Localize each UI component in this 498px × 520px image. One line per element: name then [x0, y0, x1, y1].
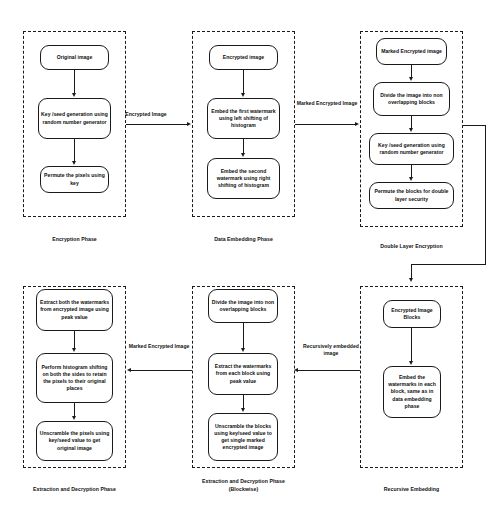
node-embed-watermarks-blocks[interactable]: Embed the watermarks in each block, same…: [383, 366, 441, 418]
node-label: Key /seed generation using random number…: [41, 111, 108, 125]
edge-label-line2: Image: [343, 100, 358, 106]
connector-arrowhead: [409, 77, 413, 81]
node-label: Permute the pixels using key: [43, 172, 106, 186]
caption-text: Extraction and Decryption Phase: [33, 486, 116, 492]
node-permute-pixels[interactable]: Permute the pixels using key: [40, 166, 109, 193]
node-label: Extract both the watermarks from encrypt…: [39, 299, 110, 321]
node-label: Key /seed generation using random number…: [372, 142, 451, 156]
connector-line: [74, 139, 75, 163]
node-label: Divide the image into non overlapping bl…: [211, 299, 275, 313]
node-unscramble-pixels[interactable]: Unscramble the pixels using key/seed val…: [36, 421, 113, 461]
node-marked-encrypted-image[interactable]: Marked Encrypted image: [376, 38, 447, 65]
edge-label-line1: Marked Encrypted: [297, 100, 341, 106]
node-original-image[interactable]: Original image: [40, 45, 109, 70]
edge-label-line1: Recursively embedded: [303, 343, 359, 349]
node-label: Unscramble the blocks using key/seed val…: [211, 423, 275, 452]
edge-label-recursively-embedded-image: Recursively embedded image: [297, 343, 365, 358]
node-permute-blocks[interactable]: Permute the blocks for double layer secu…: [369, 182, 454, 209]
connector-arrowhead: [241, 153, 245, 157]
connector-line: [411, 328, 412, 363]
edge-label-marked-encrypted-image: Marked Encrypted Image: [296, 100, 358, 107]
node-extract-watermarks-blocks[interactable]: Extract the watermarks from each block u…: [208, 353, 278, 395]
edge-label-line2: Image: [175, 343, 190, 349]
connector-line: [126, 124, 188, 125]
edge-label-encrypted-image: Encrypted Image: [101, 111, 191, 118]
connector-arrowhead: [241, 408, 245, 412]
node-label: Embed the first watermark using left shi…: [210, 108, 277, 130]
node-divide-image-blocks-2[interactable]: Divide the image into non overlapping bl…: [208, 289, 278, 323]
edge-label-line1: Marked Encrypted: [129, 343, 173, 349]
caption-text: Encryption Phase: [52, 236, 97, 242]
connector-arrowhead: [409, 361, 413, 365]
connector-arrowhead: [409, 128, 413, 132]
caption-text: Recursive Embedding: [384, 486, 439, 492]
connector-arrowhead: [187, 122, 191, 126]
node-label: Perform histogram shifting on both the s…: [39, 364, 110, 393]
flowchart-diagram: Original image Key /seed generation usin…: [0, 0, 498, 520]
node-divide-image-blocks[interactable]: Divide the image into non overlapping bl…: [373, 82, 450, 116]
phase-caption-encryption: Encryption Phase: [23, 236, 126, 244]
caption-text: Data Embedding Phase: [214, 236, 273, 242]
node-label: Original image: [43, 54, 106, 61]
node-key-seed-generation[interactable]: Key /seed generation using random number…: [38, 98, 111, 139]
node-encrypted-image[interactable]: Encrypted image: [209, 45, 278, 70]
connector-line-segment-down: [485, 125, 486, 265]
connector-arrowhead: [409, 177, 413, 181]
node-extract-both-watermarks[interactable]: Extract both the watermarks from encrypt…: [36, 289, 113, 331]
connector-arrowhead: [72, 93, 76, 97]
node-embed-first-watermark[interactable]: Embed the first watermark using left shi…: [207, 98, 280, 139]
node-label: Marked Encrypted image: [379, 48, 444, 55]
node-label: Encrypted image: [212, 54, 275, 61]
edge-label-text: Encrypted Image: [125, 111, 166, 117]
connector-line: [243, 70, 244, 95]
phase-caption-recursive-embedding: Recursive Embedding: [360, 486, 463, 494]
caption-line2: (Blockwise): [229, 486, 258, 492]
phase-caption-data-embedding: Data Embedding Phase: [192, 236, 295, 244]
node-key-seed-generation-2[interactable]: Key /seed generation using random number…: [369, 133, 454, 165]
connector-line: [297, 370, 360, 371]
phase-caption-extraction-decryption-blockwise: Extraction and Decryption Phase (Blockwi…: [187, 478, 300, 494]
node-label: Unscramble the pixels using key/seed val…: [39, 430, 110, 452]
connector-line: [295, 124, 356, 125]
phase-caption-double-layer-encryption: Double Layer Encryption: [355, 243, 468, 251]
connector-arrowhead: [127, 368, 131, 372]
edge-label-marked-encrypted-image-2: Marked Encrypted Image: [128, 343, 190, 350]
connector-line: [130, 370, 192, 371]
connector-line-segment-left: [411, 264, 486, 265]
node-unscramble-blocks[interactable]: Unscramble the blocks using key/seed val…: [208, 413, 278, 461]
node-label: Embed the second watermark using right s…: [210, 168, 277, 190]
connector-arrowhead: [72, 416, 76, 420]
node-encrypted-image-blocks[interactable]: Encrypted Image Blocks: [383, 300, 441, 328]
phase-caption-extraction-decryption: Extraction and Decryption Phase: [13, 486, 136, 494]
edge-label-line2: image: [324, 350, 339, 356]
connector-arrowhead: [72, 161, 76, 165]
connector-line: [74, 70, 75, 95]
connector-arrowhead: [241, 93, 245, 97]
node-perform-histogram-shifting[interactable]: Perform histogram shifting on both the s…: [36, 353, 113, 403]
connector-line: [243, 323, 244, 350]
connector-arrowhead: [72, 348, 76, 352]
connector-line-segment-right: [463, 125, 486, 126]
node-label: Embed the watermarks in each block, same…: [386, 374, 438, 410]
node-label: Divide the image into non overlapping bl…: [376, 92, 447, 106]
node-label: Permute the blocks for double layer secu…: [372, 188, 451, 202]
node-label: Encrypted Image Blocks: [386, 307, 438, 321]
connector-arrowhead: [241, 348, 245, 352]
node-embed-second-watermark[interactable]: Embed the second watermark using right s…: [207, 158, 280, 199]
connector-arrowhead: [409, 278, 413, 282]
caption-line1: Extraction and Decryption Phase: [202, 478, 285, 484]
connector-arrowhead: [355, 122, 359, 126]
caption-text: Double Layer Encryption: [380, 243, 443, 249]
node-label: Extract the watermarks from each block u…: [211, 363, 275, 385]
